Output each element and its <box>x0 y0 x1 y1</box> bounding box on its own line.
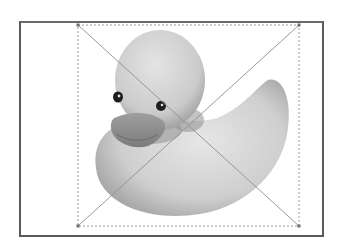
duck-image <box>95 30 288 216</box>
image-canvas[interactable] <box>0 0 342 245</box>
duck-eye-right <box>156 101 166 111</box>
resize-handle-bottom-right[interactable] <box>298 225 301 228</box>
resize-handle-top-left[interactable] <box>77 24 80 27</box>
resize-handle-top-right[interactable] <box>298 24 301 27</box>
duck-eye-left <box>113 92 123 103</box>
resize-handle-bottom-left[interactable] <box>77 225 80 228</box>
